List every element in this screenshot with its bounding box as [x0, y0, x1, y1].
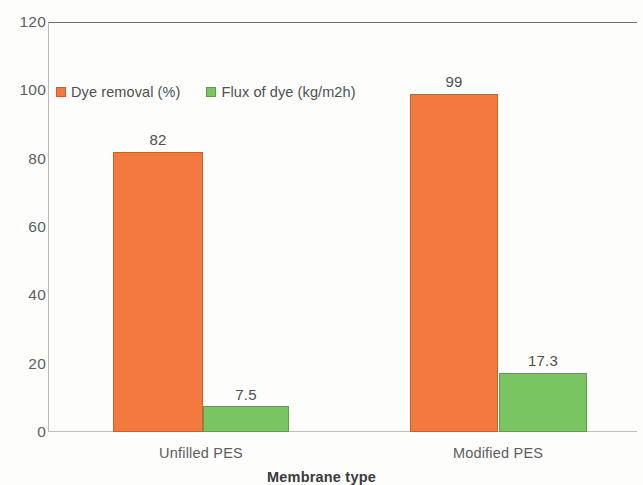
y-tick-label: 0 — [4, 424, 46, 440]
legend: Dye removal (%) Flux of dye (kg/m2h) — [56, 85, 356, 100]
y-tick-label: 100 — [4, 83, 46, 99]
legend-label: Flux of dye (kg/m2h) — [221, 85, 355, 100]
legend-label: Dye removal (%) — [71, 85, 180, 100]
bar-value-label: 7.5 — [235, 387, 256, 402]
y-tick-label: 120 — [4, 14, 46, 30]
bar-dye-removal-modified-pes[interactable] — [410, 94, 498, 432]
bar-dye-removal-unfilled-pes[interactable] — [113, 152, 203, 432]
y-axis: 120 100 80 60 40 20 0 — [0, 0, 46, 485]
y-tick-label: 60 — [4, 219, 46, 235]
legend-swatch-icon — [56, 87, 66, 97]
x-tick-label-unfilled-pes: Unfilled PES — [159, 446, 243, 461]
y-tick-label: 80 — [4, 151, 46, 167]
legend-item-flux[interactable]: Flux of dye (kg/m2h) — [206, 85, 355, 100]
x-tick-label-modified-pes: Modified PES — [453, 446, 543, 461]
bar-value-label: 82 — [149, 132, 166, 147]
x-axis-title: Membrane type — [0, 470, 643, 485]
bar-flux-unfilled-pes[interactable] — [203, 406, 289, 432]
bar-value-label: 99 — [445, 74, 462, 89]
bar-chart: 120 100 80 60 40 20 0 82 7.5 99 17.3 Dye… — [0, 0, 643, 485]
y-tick-label: 20 — [4, 356, 46, 372]
legend-item-dye-removal[interactable]: Dye removal (%) — [56, 85, 180, 100]
legend-swatch-icon — [206, 87, 216, 97]
bar-flux-modified-pes[interactable] — [499, 373, 587, 432]
y-tick-label: 40 — [4, 288, 46, 304]
bar-value-label: 17.3 — [528, 353, 558, 368]
